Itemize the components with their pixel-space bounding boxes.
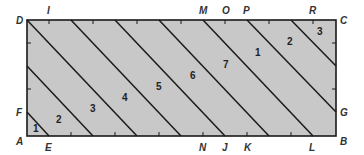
region-number: 4 <box>122 92 128 103</box>
region-number: 3 <box>90 103 96 114</box>
point-label: I <box>47 5 50 16</box>
point-label: G <box>340 107 348 118</box>
strip-diagram: DCAB IMOPRFGENJKL 1234567123 <box>0 0 364 155</box>
region-number: 2 <box>56 114 62 125</box>
corner-label: B <box>340 136 347 147</box>
region-number: 1 <box>255 47 261 58</box>
point-label: E <box>45 142 52 153</box>
corner-label: D <box>16 15 23 26</box>
point-label: R <box>309 5 317 16</box>
corner-label: C <box>340 15 348 26</box>
region-number: 6 <box>190 70 196 81</box>
point-label: M <box>199 5 208 16</box>
corner-label: A <box>15 136 23 147</box>
region-number: 1 <box>33 123 39 134</box>
point-label: F <box>16 107 23 118</box>
point-label: O <box>222 5 230 16</box>
region-number: 5 <box>156 81 162 92</box>
point-label: L <box>309 142 315 153</box>
region-number: 7 <box>223 59 229 70</box>
region-number: 3 <box>317 26 323 37</box>
point-label: N <box>199 142 207 153</box>
point-label: J <box>222 142 228 153</box>
point-label: K <box>244 142 252 153</box>
region-number: 2 <box>287 36 293 47</box>
point-label: P <box>243 5 250 16</box>
